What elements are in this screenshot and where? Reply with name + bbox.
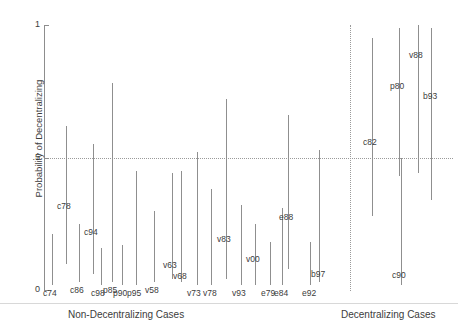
confidence-interval-bar (431, 28, 432, 200)
case-label-c74: c74 (43, 289, 57, 298)
confidence-interval-bar (197, 152, 198, 285)
case-label-v58: v58 (145, 286, 159, 295)
confidence-interval-bar (226, 99, 227, 279)
y-axis-title: Probability of Decentralizing (33, 39, 44, 239)
confidence-interval-bar (288, 115, 289, 269)
case-label-v73: v73 (187, 289, 201, 298)
case-label-c82: c82 (363, 138, 377, 147)
case-label-c94: c94 (84, 228, 98, 237)
confidence-interval-bar (372, 38, 373, 216)
case-label-v68: v68 (173, 272, 187, 281)
confidence-interval-bar (418, 25, 419, 173)
confidence-interval-bar (181, 171, 182, 282)
group-separator-line (350, 25, 351, 291)
chart-figure: 1.50 c74c78c86c94c98p85p90p95v58v63v68v7… (0, 0, 458, 328)
case-label-b97: b97 (311, 270, 325, 279)
confidence-interval-bar (401, 158, 402, 285)
confidence-interval-bar (154, 211, 155, 282)
case-label-v63: v63 (163, 261, 177, 270)
case-label-c78: c78 (57, 202, 71, 211)
case-label-p80: p80 (390, 82, 404, 91)
case-label-e92: e92 (302, 289, 316, 298)
y-tick-mark (44, 158, 49, 159)
y-tick-label: 0 (18, 285, 40, 294)
plot-area: 1.50 c74c78c86c94c98p85p90p95v58v63v68v7… (0, 0, 458, 328)
confidence-interval-bar (399, 28, 400, 176)
confidence-interval-bar (101, 248, 102, 285)
confidence-interval-bar (136, 171, 137, 285)
group-label-non-decentralizing: Non-Decentralizing Cases (68, 309, 184, 320)
case-label-e84: e84 (274, 289, 288, 298)
case-label-v88: v88 (409, 51, 423, 60)
y-tick-label: 1 (18, 20, 40, 29)
y-tick-mark (44, 25, 49, 26)
case-label-e88: e88 (279, 213, 293, 222)
half-probability-reference-line (44, 158, 453, 159)
confidence-interval-bar (66, 126, 67, 264)
case-label-c86: c86 (70, 286, 84, 295)
confidence-interval-bar (79, 224, 80, 282)
confidence-interval-bar (52, 234, 53, 285)
bottom-divider (0, 303, 458, 304)
case-label-p95: p95 (127, 289, 141, 298)
confidence-interval-bar (241, 205, 242, 285)
confidence-interval-bar (211, 189, 212, 285)
confidence-interval-bar (319, 150, 320, 282)
confidence-interval-bar (270, 242, 271, 285)
confidence-interval-bar (93, 144, 94, 274)
confidence-interval-bar (122, 245, 123, 285)
group-label-decentralizing: Decentralizing Cases (341, 309, 436, 320)
case-label-v83: v83 (217, 235, 231, 244)
confidence-interval-bar (112, 83, 113, 282)
case-label-b93: b93 (423, 92, 437, 101)
case-label-c90: c90 (392, 271, 406, 280)
case-label-p90: p90 (113, 289, 127, 298)
case-label-v00: v00 (246, 255, 260, 264)
case-label-v78: v78 (203, 289, 217, 298)
case-label-v93: v93 (232, 289, 246, 298)
